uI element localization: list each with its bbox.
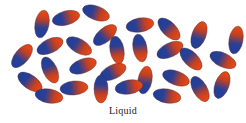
polar-molecule xyxy=(51,8,82,29)
polar-molecule xyxy=(187,73,213,104)
polar-molecule xyxy=(152,87,182,106)
polar-molecule xyxy=(8,41,37,71)
polar-molecule xyxy=(125,16,155,35)
polar-molecule xyxy=(80,2,111,25)
polar-molecule xyxy=(154,14,184,44)
polar-molecule xyxy=(188,19,211,50)
polar-molecule xyxy=(38,54,63,85)
polar-molecule xyxy=(63,33,94,59)
polar-molecule xyxy=(94,75,108,103)
polar-molecule xyxy=(160,67,191,90)
polar-molecule xyxy=(227,25,246,55)
polar-molecule xyxy=(211,69,234,100)
diagram-caption: Liquid xyxy=(0,105,246,116)
polar-molecule xyxy=(67,55,98,78)
polar-molecule xyxy=(33,9,52,39)
molecule-group xyxy=(8,2,246,106)
polar-molecule xyxy=(59,80,88,96)
polar-molecule xyxy=(131,33,150,63)
